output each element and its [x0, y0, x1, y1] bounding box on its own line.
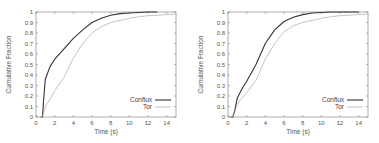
y-axis-title: Cumulative Fraction [197, 35, 204, 93]
y-tick-label: 0.8 [217, 30, 226, 36]
y-tick-label: 0.3 [217, 83, 226, 89]
y-tick-label: 0 [30, 114, 34, 120]
y-tick-label: 0.1 [25, 104, 34, 110]
x-axis-title: Time (s) [94, 128, 118, 136]
x-tick-label: 0 [226, 120, 230, 126]
legend-label-tor: Tor [143, 103, 153, 110]
x-tick-label: 8 [301, 120, 305, 126]
figure: 00.10.20.30.40.50.60.70.80.9102468101214… [0, 0, 379, 143]
y-tick-label: 0 [222, 114, 226, 120]
cdf-chart-left: 00.10.20.30.40.50.60.70.80.9102468101214… [5, 9, 176, 136]
x-tick-label: 4 [72, 120, 76, 126]
y-tick-label: 0.5 [25, 62, 34, 68]
y-tick-label: 0.5 [217, 62, 226, 68]
x-tick-label: 14 [355, 120, 362, 126]
y-tick-label: 0.4 [25, 72, 34, 78]
y-tick-label: 0.6 [25, 51, 34, 57]
y-tick-label: 0.9 [217, 20, 226, 26]
y-tick-label: 1 [30, 9, 34, 15]
plot-frame [228, 12, 368, 117]
x-tick-label: 2 [245, 120, 249, 126]
x-tick-label: 12 [337, 120, 344, 126]
x-tick-label: 6 [282, 120, 286, 126]
cdf-chart-right: 00.10.20.30.40.50.60.70.80.9102468101214… [197, 9, 368, 136]
y-tick-label: 0.7 [217, 41, 226, 47]
x-tick-label: 12 [145, 120, 152, 126]
legend-label-conflux: Conflux [130, 96, 153, 103]
y-tick-label: 0.4 [217, 72, 226, 78]
x-tick-label: 4 [264, 120, 268, 126]
y-tick-label: 0.6 [217, 51, 226, 57]
legend-label-conflux: Conflux [322, 96, 345, 103]
y-axis-title: Cumulative Fraction [5, 35, 12, 93]
y-tick-label: 0.1 [217, 104, 226, 110]
series-line-tor [231, 14, 368, 117]
legend-label-tor: Tor [335, 103, 345, 110]
series-line-tor [41, 14, 176, 117]
x-tick-label: 6 [90, 120, 94, 126]
plot-frame [36, 12, 176, 117]
y-tick-label: 0.9 [25, 20, 34, 26]
y-tick-label: 0.2 [25, 93, 34, 99]
y-tick-label: 1 [222, 9, 226, 15]
y-tick-label: 0.8 [25, 30, 34, 36]
y-tick-label: 0.7 [25, 41, 34, 47]
x-tick-label: 8 [109, 120, 113, 126]
x-axis-title: Time (s) [286, 128, 310, 136]
x-tick-label: 2 [53, 120, 57, 126]
x-tick-label: 0 [34, 120, 38, 126]
x-tick-label: 10 [318, 120, 325, 126]
x-tick-label: 14 [163, 120, 170, 126]
x-tick-label: 10 [126, 120, 133, 126]
y-tick-label: 0.3 [25, 83, 34, 89]
y-tick-label: 0.2 [217, 93, 226, 99]
